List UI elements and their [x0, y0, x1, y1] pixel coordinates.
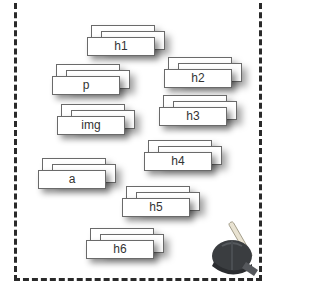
- card-front: h5: [122, 198, 190, 217]
- card-stack-h3: h3h3h3: [159, 95, 249, 129]
- card-label: a: [69, 172, 76, 186]
- card-stack-a: aaa: [38, 158, 128, 192]
- card-front: p: [52, 76, 120, 95]
- card-label: p: [83, 78, 90, 92]
- card-front: h3: [159, 107, 227, 126]
- card-front: img: [57, 116, 125, 135]
- card-stack-p: ppp: [52, 64, 142, 98]
- card-stack-h2: h2h2h2: [164, 57, 254, 91]
- card-label: img: [81, 118, 100, 132]
- card-front: a: [38, 170, 106, 189]
- card-label: h1: [114, 39, 127, 53]
- card-label: h6: [113, 242, 126, 256]
- card-label: h3: [186, 109, 199, 123]
- hard-hat-hammer-icon: [208, 218, 264, 280]
- card-stack-h5: h5h5h5: [122, 186, 212, 220]
- card-front: h1: [87, 37, 155, 56]
- card-front: h2: [164, 69, 232, 88]
- card-stack-h6: h6h6h6: [86, 228, 176, 262]
- card-stack-h4: h4h4h4: [144, 140, 234, 174]
- card-label: h2: [191, 71, 204, 85]
- card-label: h5: [149, 200, 162, 214]
- card-stack-img: imgimgimg: [57, 104, 147, 138]
- card-front: h6: [86, 240, 154, 259]
- card-label: h4: [171, 154, 184, 168]
- card-stack-h1: h1h1h1: [87, 25, 177, 59]
- card-front: h4: [144, 152, 212, 171]
